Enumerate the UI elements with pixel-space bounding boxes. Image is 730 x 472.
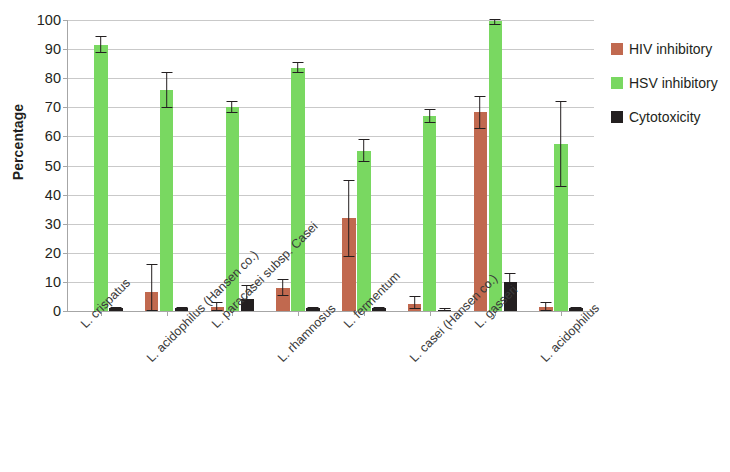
bar-cytotoxicity[interactable]: [175, 308, 189, 311]
error-bar-cap-lower: [278, 295, 289, 296]
error-bar-cap-upper: [541, 302, 552, 303]
error-bar-cap-lower: [424, 122, 435, 123]
error-bar-cap-lower: [95, 52, 106, 53]
bar-cytotoxicity[interactable]: [372, 308, 386, 311]
bar-slot: [175, 20, 189, 311]
error-bar-cap-upper: [505, 273, 516, 274]
error-bar-line: [297, 62, 298, 72]
y-tick-label: 10: [45, 274, 61, 290]
error-bar-line: [217, 302, 218, 309]
error-bar-cap-upper: [439, 308, 450, 309]
bar-slot: [372, 20, 386, 311]
error-bar-cap-upper: [176, 307, 187, 308]
error-bar-cap-upper: [409, 296, 420, 297]
bar-slot: [145, 20, 159, 311]
bar-hsv-inhibitory[interactable]: [489, 21, 503, 311]
error-bar-line: [414, 296, 415, 308]
error-bar-line: [282, 279, 283, 295]
error-bar-line: [560, 101, 561, 185]
error-bar-cap-lower: [475, 128, 486, 129]
error-bar-cap-upper: [424, 109, 435, 110]
error-bar-line: [166, 72, 167, 107]
error-bar-line: [545, 302, 546, 309]
bar-hsv-inhibitory[interactable]: [357, 151, 371, 311]
error-bar-line: [100, 36, 101, 52]
legend-item[interactable]: HSV inhibitory: [611, 66, 730, 100]
error-bar-cap-lower: [161, 107, 172, 108]
x-tick-mark: [561, 311, 562, 316]
y-tick-label: 30: [45, 216, 61, 232]
bar-slot: [94, 20, 108, 311]
bar-hsv-inhibitory[interactable]: [160, 90, 174, 311]
bar-hsv-inhibitory[interactable]: [423, 116, 437, 311]
error-bar-line: [348, 180, 349, 256]
y-tick-label: 50: [45, 158, 61, 174]
error-bar-cap-upper: [161, 72, 172, 73]
bar-slot: [291, 20, 305, 311]
x-tick-mark: [298, 311, 299, 316]
chart-legend: HIV inhibitoryHSV inhibitoryCytotoxicity: [611, 32, 730, 134]
plot-area: 1009080706050403020100: [67, 20, 594, 312]
error-bar-cap-upper: [556, 101, 567, 102]
error-bar-cap-lower: [556, 186, 567, 187]
error-bar-cap-lower: [490, 24, 501, 25]
bar-group: [134, 20, 200, 311]
y-axis-title: Percentage: [10, 82, 26, 202]
bar-slot: [79, 20, 93, 311]
bar-group: [331, 20, 397, 311]
error-bar-cap-upper: [278, 279, 289, 280]
bar-slot: [357, 20, 371, 311]
bar-slot: [539, 20, 553, 311]
bar-slot: [342, 20, 356, 311]
legend-item[interactable]: Cytotoxicity: [611, 100, 730, 134]
legend-swatch-icon: [611, 43, 623, 55]
error-bar-cap-upper: [358, 139, 369, 140]
bar-slot: [109, 20, 123, 311]
error-bar-cap-lower: [358, 161, 369, 162]
error-bar-cap-upper: [571, 307, 582, 308]
legend-item[interactable]: HIV inhibitory: [611, 32, 730, 66]
bar-slot: [408, 20, 422, 311]
error-bar-cap-lower: [242, 308, 253, 309]
y-tick-label: 100: [37, 12, 61, 28]
error-bar-cap-upper: [95, 36, 106, 37]
bar-slot: [306, 20, 320, 311]
y-tick-label: 80: [45, 70, 61, 86]
error-bar-cap-upper: [343, 180, 354, 181]
bar-group: [397, 20, 463, 311]
bar-chart-figure: Percentage 1009080706050403020100 L. cri…: [0, 0, 730, 472]
y-tick-label: 20: [45, 245, 61, 261]
bar-hsv-inhibitory[interactable]: [291, 68, 305, 311]
error-bar-line: [363, 139, 364, 161]
y-tick-label: 40: [45, 187, 61, 203]
bar-slot: [438, 20, 452, 311]
x-tick-mark: [430, 311, 431, 316]
bar-group: [463, 20, 529, 311]
bar-slot: [423, 20, 437, 311]
bar-slot: [211, 20, 225, 311]
error-bar-cap-lower: [293, 72, 304, 73]
error-bar-cap-upper: [146, 264, 157, 265]
error-bar-line: [429, 109, 430, 122]
bar-slot: [489, 20, 503, 311]
error-bar-cap-lower: [541, 310, 552, 311]
error-bar-cap-upper: [308, 307, 319, 308]
bar-slot: [160, 20, 174, 311]
legend-label: HSV inhibitory: [629, 75, 718, 91]
error-bar-cap-lower: [409, 308, 420, 309]
legend-label: HIV inhibitory: [629, 41, 712, 57]
x-tick-mark: [167, 311, 168, 316]
bar-cytotoxicity[interactable]: [109, 308, 123, 311]
error-bar-cap-upper: [490, 19, 501, 20]
error-bar-line: [480, 96, 481, 128]
bar-group: [528, 20, 594, 311]
bar-hsv-inhibitory[interactable]: [94, 45, 108, 311]
error-bar-cap-lower: [227, 112, 238, 113]
bar-slot: [504, 20, 518, 311]
error-bar-cap-upper: [475, 96, 486, 97]
legend-label: Cytotoxicity: [629, 109, 701, 125]
error-bar-cap-lower: [343, 256, 354, 257]
bar-slot: [554, 20, 568, 311]
y-tick-label: 90: [45, 41, 61, 57]
error-bar-line: [151, 264, 152, 309]
